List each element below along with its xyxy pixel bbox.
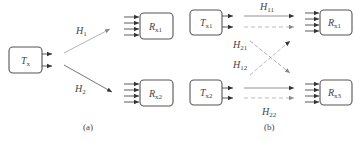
receiver-rx1-b: Rx1 [305, 10, 352, 35]
channel-h22-label: H22 [261, 106, 277, 119]
transmitter-tx2: Tx2 [190, 80, 233, 105]
channel-h2-label: H2 [74, 83, 86, 96]
channel-h1-arrow [64, 29, 110, 53]
channel-h11-label: H11 [259, 1, 274, 14]
transmitter-tx1: Tx1 [190, 10, 233, 35]
caption-b: (b) [264, 122, 275, 132]
channel-h2-arrow [64, 65, 112, 92]
panel-b: Tx1 Tx2 H11 H21 H12 H22 Rx1 [190, 1, 352, 132]
mimo-channel-diagram: Tx H1 H2 Rx1 Rx2 (a) Tx1 [0, 0, 354, 142]
panel-a: Tx H1 H2 Rx1 Rx2 (a) [9, 13, 173, 132]
receiver-rx1: Rx1 [124, 13, 173, 39]
channel-h21-label: H21 [232, 39, 248, 52]
receiver-rx2: Rx2 [124, 80, 173, 106]
channel-h1-label: H1 [75, 25, 87, 38]
caption-a: (a) [83, 122, 93, 132]
transmitter-tx: Tx [9, 47, 52, 73]
receiver-rx3-b: Rx3 [305, 80, 352, 105]
channel-h12-label: H12 [232, 59, 248, 72]
